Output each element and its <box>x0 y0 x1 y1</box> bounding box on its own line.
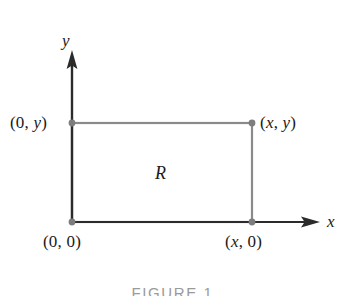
point-label-top-left: (0, y) <box>10 114 47 131</box>
figure-canvas: y x R (0, y) (x, y) (0, 0) (x, 0) FIGURE… <box>0 0 345 296</box>
region-label-r: R <box>155 164 166 182</box>
coordinate-diagram <box>0 0 345 296</box>
point-marker-bottom-left <box>69 219 76 226</box>
point-label-bottom-right: (x, 0) <box>225 233 262 250</box>
variable-x-text: x <box>231 232 239 251</box>
comma-text: , <box>274 113 283 132</box>
paren-open-text: (0, <box>10 113 33 132</box>
figure-caption: FIGURE 1 <box>0 285 345 296</box>
point-marker-top-left <box>69 120 76 127</box>
y-axis-label: y <box>62 32 70 49</box>
paren-close-text: ) <box>41 113 47 132</box>
point-marker-top-right <box>249 120 256 127</box>
x-axis-label: x <box>327 213 335 230</box>
variable-x-text: x <box>266 113 274 132</box>
point-label-top-right: (x, y) <box>260 114 296 131</box>
point-label-bottom-left: (0, 0) <box>43 233 81 250</box>
paren-close-text: ) <box>290 113 296 132</box>
point-marker-bottom-right <box>249 219 256 226</box>
paren-close-text: , 0) <box>239 232 262 251</box>
